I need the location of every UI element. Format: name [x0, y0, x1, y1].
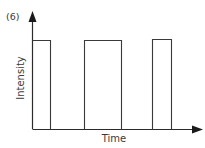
y-axis	[29, 11, 37, 129]
y-axis-arrow-icon	[29, 11, 37, 22]
pulse-2	[85, 41, 122, 130]
intensity-time-figure: (6) Time Intensity	[0, 0, 205, 148]
pulse-1	[33, 41, 51, 130]
pulse-3	[153, 40, 172, 130]
y-axis-label: Intensity	[15, 56, 26, 100]
x-axis-label: Time	[101, 133, 126, 144]
panel-label: (6)	[6, 11, 19, 22]
x-axis-arrow-icon	[192, 126, 203, 134]
pulse-series	[33, 40, 172, 130]
